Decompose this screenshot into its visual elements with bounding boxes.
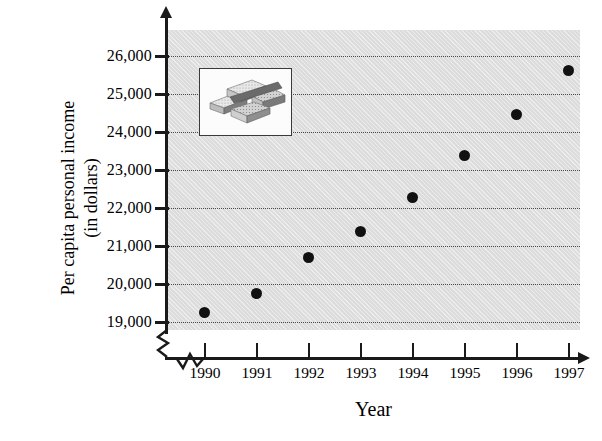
x-axis-line — [165, 357, 583, 360]
x-axis-title: Year — [167, 398, 580, 421]
y-tick-23000 — [155, 169, 169, 172]
x-axis-arrow — [578, 352, 590, 364]
gridline-26000 — [167, 56, 580, 57]
data-point-1990 — [199, 307, 210, 318]
data-point-1993 — [355, 226, 366, 237]
data-point-1994 — [407, 192, 418, 203]
x-tick-label-1996: 1996 — [491, 364, 543, 381]
x-tick-1994 — [412, 343, 414, 359]
gridline-20000 — [167, 284, 580, 285]
gridline-19000 — [167, 322, 580, 323]
y-axis-title: Per capita personal income (in dollars) — [57, 33, 103, 363]
y-tick-19000 — [155, 321, 169, 324]
x-tick-label-1995: 1995 — [439, 364, 491, 381]
y-tick-26000 — [155, 55, 169, 58]
data-point-1996 — [511, 109, 522, 120]
data-point-1992 — [303, 252, 314, 263]
gridline-21000 — [167, 246, 580, 247]
x-tick-label-1992: 1992 — [283, 364, 335, 381]
y-tick-22000 — [155, 207, 169, 210]
data-point-1995 — [459, 150, 470, 161]
data-point-1997 — [563, 65, 574, 76]
money-stacks-image — [199, 68, 292, 136]
x-tick-1996 — [516, 343, 518, 359]
gridline-22000 — [167, 208, 580, 209]
x-tick-1991 — [256, 343, 258, 359]
y-tick-24000 — [155, 131, 169, 134]
x-tick-label-1993: 1993 — [335, 364, 387, 381]
data-point-1991 — [251, 288, 262, 299]
x-tick-1995 — [464, 343, 466, 359]
x-tick-1992 — [308, 343, 310, 359]
x-tick-label-1994: 1994 — [387, 364, 439, 381]
gridline-23000 — [167, 170, 580, 171]
y-axis-break-symbol — [156, 330, 178, 364]
y-tick-25000 — [155, 93, 169, 96]
x-tick-1993 — [360, 343, 362, 359]
x-tick-label-1997: 1997 — [543, 364, 595, 381]
x-tick-label-1991: 1991 — [231, 364, 283, 381]
y-axis-title-line1: Per capita personal income — [57, 33, 80, 363]
x-tick-1997 — [568, 343, 570, 359]
y-axis-arrow — [160, 6, 172, 18]
y-tick-20000 — [155, 283, 169, 286]
scatter-plot-figure: 26,000 25,000 24,000 23,000 22,000 21,00… — [0, 0, 602, 441]
y-axis-title-line2: (in dollars) — [80, 33, 103, 363]
y-tick-21000 — [155, 245, 169, 248]
y-axis-line — [165, 14, 168, 334]
x-axis-break-symbol — [176, 350, 206, 376]
